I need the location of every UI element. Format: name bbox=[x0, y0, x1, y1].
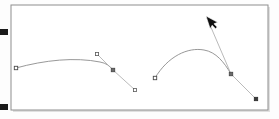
anchor-right-end[interactable] bbox=[229, 72, 232, 75]
anchor-left-start[interactable] bbox=[14, 66, 17, 69]
ruler-marker-top[interactable] bbox=[0, 29, 8, 35]
handle-left-incoming-knob[interactable] bbox=[95, 52, 98, 55]
anchor-right-start[interactable] bbox=[153, 76, 156, 79]
vector-canvas[interactable] bbox=[0, 0, 279, 119]
handle-right-outgoing-knob[interactable] bbox=[254, 97, 257, 100]
ruler-marker-bottom[interactable] bbox=[0, 104, 8, 110]
artboard-frame[interactable] bbox=[11, 5, 268, 110]
editor-canvas-window[interactable]: Vector Path Editor Canvas Drawing canvas… bbox=[0, 0, 279, 119]
handle-left-outgoing-knob[interactable] bbox=[133, 88, 136, 91]
anchor-left-end[interactable] bbox=[111, 68, 114, 71]
